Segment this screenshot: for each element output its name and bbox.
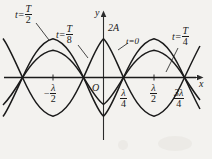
curve-label-t-zero: t=0 — [126, 37, 139, 46]
y-axis-label: y — [95, 8, 99, 18]
amplitude-label-2a: 2A — [108, 23, 119, 33]
curve-label-t-eighth-T: t= T 8 — [56, 24, 73, 45]
x-tick-label-half-lambda: λ 2 — [150, 83, 157, 104]
curve-label-t-quarter-T: t= T 4 — [172, 26, 189, 47]
curve-label-t-half-T: t= T 2 — [15, 4, 32, 25]
x-axis-label: x — [199, 79, 203, 89]
x-tick-label-neg-half-lambda: − λ 2 — [44, 83, 57, 104]
leader-t-eighth-T — [78, 45, 88, 58]
x-tick-label-quarter-lambda: λ 4 — [120, 88, 127, 109]
x-tick-label-three-quarter-lambda: 3λ 4 — [173, 88, 184, 109]
standing-wave-figure: t= T 2 t= T 8 t=0 t= T 4 2A y — [0, 0, 212, 159]
leader-t-half-T — [36, 23, 49, 40]
origin-label: O — [92, 83, 99, 93]
